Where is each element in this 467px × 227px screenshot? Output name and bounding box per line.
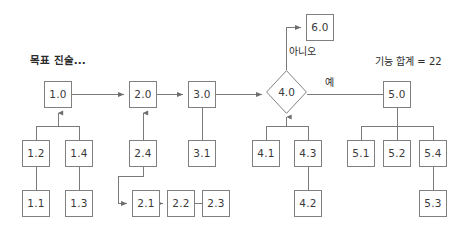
edge-label-yes: 예 [324, 78, 335, 88]
edge-label-no: 아니오 [288, 47, 317, 57]
function-total-label: 기능 합계 = 22 [375, 57, 442, 67]
node-2.2[interactable]: 2.2 [167, 190, 195, 217]
node-6.0[interactable]: 6.0 [306, 14, 334, 41]
goal-statement-label: 목표 진술... [30, 55, 86, 66]
node-1.1[interactable]: 1.1 [22, 190, 50, 217]
flowchart-diagram: 목표 진술... 기능 합계 = 22 아니오 예 1.0 1.2 1.4 1.… [0, 0, 467, 227]
node-5.0[interactable]: 5.0 [383, 81, 411, 108]
node-2.4[interactable]: 2.4 [129, 140, 157, 167]
node-3.1[interactable]: 3.1 [188, 140, 216, 167]
node-1.0[interactable]: 1.0 [44, 81, 72, 108]
node-4.0-label: 4.0 [278, 87, 295, 98]
node-2.3[interactable]: 2.3 [202, 190, 230, 217]
node-4.0-decision[interactable]: 4.0 [266, 70, 307, 114]
node-4.2[interactable]: 4.2 [294, 190, 322, 217]
node-5.1[interactable]: 5.1 [347, 140, 375, 167]
node-3.0[interactable]: 3.0 [188, 81, 216, 108]
node-2.1[interactable]: 2.1 [132, 190, 160, 217]
node-5.4[interactable]: 5.4 [419, 140, 447, 167]
node-1.4[interactable]: 1.4 [65, 140, 93, 167]
node-1.3[interactable]: 1.3 [65, 190, 93, 217]
node-1.2[interactable]: 1.2 [22, 140, 50, 167]
node-5.3[interactable]: 5.3 [419, 190, 447, 217]
node-4.1[interactable]: 4.1 [252, 140, 280, 167]
node-4.3[interactable]: 4.3 [294, 140, 322, 167]
node-5.2[interactable]: 5.2 [383, 140, 411, 167]
node-2.0[interactable]: 2.0 [129, 81, 157, 108]
